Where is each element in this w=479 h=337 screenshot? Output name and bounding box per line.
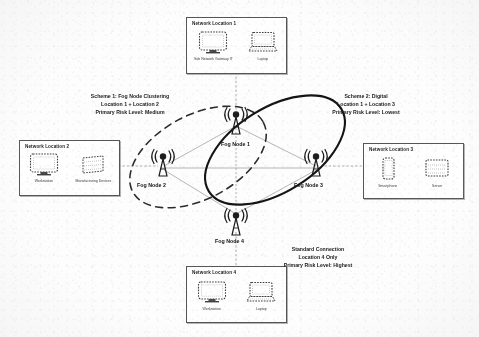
fog-node-2-tower[interactable] [146,146,180,184]
device-laptop: Laptop [245,280,277,311]
antenna-tower-icon [146,146,180,180]
location-title: Network Location 4 [192,270,236,275]
device-caption: Sub Network Gateway IT [194,57,233,61]
server-icon [422,156,452,182]
annotation-standard-connection: Standard Connection Location 4 Only Prim… [256,245,380,270]
device-row: Smartphone Server [364,156,463,188]
location-box-2[interactable]: Network Location 2 Workstation Man [19,140,120,196]
fog-node-3-label: Fog Node 3 [294,182,323,188]
diagram-canvas: Network Location 1 Sub Network Gateway I… [0,0,479,337]
annotation-line-1: Scheme 1: Fog Node Clustering [70,92,190,100]
location-title: Network Location 1 [192,21,236,26]
location-box-3[interactable]: Network Location 3 Smartphone Server [363,143,464,199]
annotation-line-3: Primary Risk Level: Medium [70,108,190,116]
annotation-scheme-2: Scheme 2: Digital Location 1 + Location … [305,92,427,117]
device-caption: Laptop [256,307,267,311]
device-caption: Manufacturing Devices [76,179,112,183]
device-server: Manufacturing Devices [76,152,112,183]
antenna-tower-icon [219,104,253,138]
annotation-line-3: Primary Risk Level: Lowest [305,108,427,116]
device-row: Workstation Manufacturing Devices [20,152,119,183]
device-caption: Laptop [258,57,269,61]
device-server: Server [422,156,452,188]
device-laptop: Laptop [247,30,279,61]
annotation-scheme-1: Scheme 1: Fog Node Clustering Location 1… [70,92,190,117]
device-caption: Workstation [203,307,221,311]
antenna-tower-icon [299,146,333,180]
location-box-1[interactable]: Network Location 1 Sub Network Gateway I… [186,17,287,74]
device-workstation: Workstation [196,280,228,311]
monitor-icon [196,280,228,305]
device-workstation: Sub Network Gateway IT [194,30,233,61]
location-title: Network Location 3 [369,147,413,152]
laptop-icon [245,280,277,305]
fog-node-2-label: Fog Node 2 [137,182,166,188]
annotation-line-1: Standard Connection [256,245,380,253]
device-mobile: Smartphone [375,156,401,188]
location-box-4[interactable]: Network Location 4 Workstation Lap [186,266,287,323]
device-row: Workstation Laptop [187,280,286,311]
device-caption: Workstation [35,179,53,183]
device-caption: Server [432,184,442,188]
monitor-icon [28,152,60,177]
server-icon [77,152,109,177]
fog-node-3-tower[interactable] [299,146,333,184]
fog-node-1-tower[interactable] [219,104,253,142]
device-workstation: Workstation [28,152,60,183]
device-caption: Smartphone [378,184,397,188]
laptop-icon [247,30,279,55]
annotation-line-2: Location 1 + Location 2 [70,100,190,108]
annotation-line-2: Location 4 Only [256,253,380,261]
annotation-line-1: Scheme 2: Digital [305,92,427,100]
fog-node-4-label: Fog Node 4 [215,238,244,244]
annotation-line-3: Primary Risk Level: Highest [256,261,380,269]
phone-icon [375,156,401,182]
annotation-line-2: Location 1 + Location 3 [305,100,427,108]
device-row: Sub Network Gateway IT Laptop [187,30,286,61]
monitor-icon [197,30,229,55]
location-title: Network Location 2 [25,144,69,149]
antenna-tower-icon [219,205,253,239]
fog-node-1-label: Fog Node 1 [221,141,250,147]
